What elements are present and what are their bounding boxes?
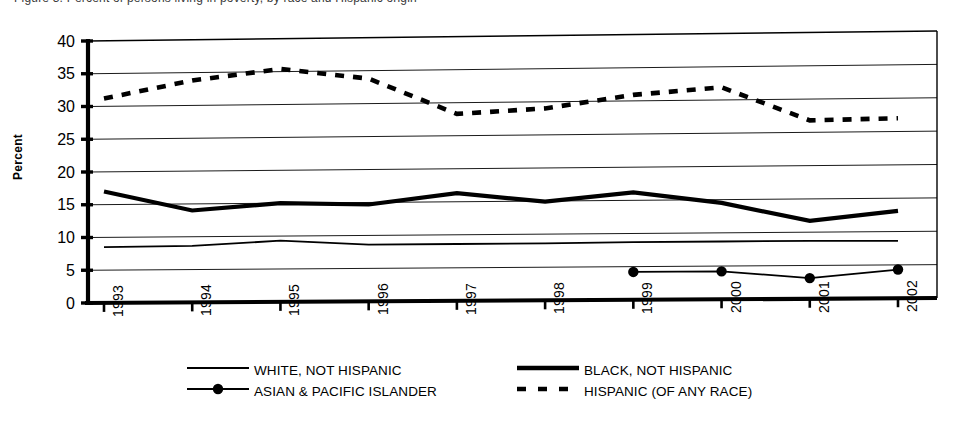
series-line-hispanic bbox=[104, 69, 898, 120]
y-axis: 0510152025303540 bbox=[57, 33, 93, 312]
frame-top bbox=[88, 31, 937, 41]
legend-swatch-hispanic-any-race bbox=[516, 381, 580, 401]
y-tick-label-15: 15 bbox=[57, 196, 75, 213]
gridlines bbox=[88, 64, 937, 270]
y-tick-label-35: 35 bbox=[57, 65, 75, 82]
gridline-30 bbox=[88, 98, 937, 107]
legend-label-hispanic-any-race: HISPANIC (OF ANY RACE) bbox=[584, 384, 752, 399]
legend-swatch-black-not-hispanic bbox=[516, 360, 580, 380]
legend-label-white-not-hispanic: WHITE, NOT HISPANIC bbox=[254, 363, 402, 378]
y-tick-label-10: 10 bbox=[57, 229, 75, 246]
legend-label-black-not-hispanic: BLACK, NOT HISPANIC bbox=[584, 363, 732, 378]
gridline-20 bbox=[88, 165, 937, 173]
legend-swatch-asian-pacific-islander bbox=[186, 381, 250, 401]
legend-item-asian-pacific-islander: ASIAN & PACIFIC ISLANDER bbox=[186, 381, 437, 401]
plot-frame bbox=[88, 31, 937, 298]
data-series bbox=[104, 69, 903, 283]
gridline-10 bbox=[88, 231, 937, 237]
x-axis bbox=[85, 298, 937, 312]
legend-item-black-not-hispanic: BLACK, NOT HISPANIC bbox=[516, 360, 732, 380]
legend-item-white-not-hispanic: WHITE, NOT HISPANIC bbox=[186, 360, 402, 380]
series-marker-asian bbox=[805, 273, 815, 283]
y-tick-label-0: 0 bbox=[66, 295, 75, 312]
series-line-black bbox=[104, 192, 898, 221]
legend-swatch-white-not-hispanic bbox=[186, 360, 250, 380]
series-marker-asian bbox=[628, 267, 638, 277]
series-marker-asian bbox=[716, 266, 726, 276]
series-solid-marker bbox=[628, 264, 903, 283]
gridline-35 bbox=[88, 64, 937, 73]
y-tick-label-5: 5 bbox=[66, 262, 75, 279]
gridline-5 bbox=[88, 265, 937, 271]
series-dashed bbox=[104, 69, 898, 120]
legend-item-hispanic-any-race: HISPANIC (OF ANY RACE) bbox=[516, 381, 752, 401]
y-tick-label-30: 30 bbox=[57, 98, 75, 115]
series-line-white bbox=[104, 241, 898, 248]
series-thick-solid bbox=[104, 192, 898, 221]
series-marker-asian bbox=[893, 264, 903, 274]
series-line-asian bbox=[633, 270, 898, 279]
series-thin-solid bbox=[104, 241, 898, 248]
poverty-by-race-line-chart: Figure 3. Percent of persons living in p… bbox=[0, 0, 963, 421]
y-tick-label-20: 20 bbox=[57, 164, 75, 181]
chart-legend: WHITE, NOT HISPANICASIAN & PACIFIC ISLAN… bbox=[0, 358, 963, 404]
y-tick-label-40: 40 bbox=[57, 33, 75, 50]
gridline-25 bbox=[88, 131, 937, 139]
legend-label-asian-pacific-islander: ASIAN & PACIFIC ISLANDER bbox=[254, 384, 437, 399]
y-tick-label-25: 25 bbox=[57, 131, 75, 148]
